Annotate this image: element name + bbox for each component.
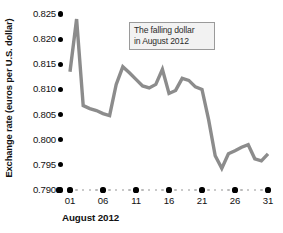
annotation-line-2: in August 2012 bbox=[134, 36, 210, 47]
annotation-line-1: The falling dollar bbox=[134, 25, 210, 36]
exchange-rate-line-chart: Exchange rate (euros per U.S. dollar) 0.… bbox=[0, 0, 283, 233]
annotation-callout: The falling dollar in August 2012 bbox=[129, 22, 215, 50]
